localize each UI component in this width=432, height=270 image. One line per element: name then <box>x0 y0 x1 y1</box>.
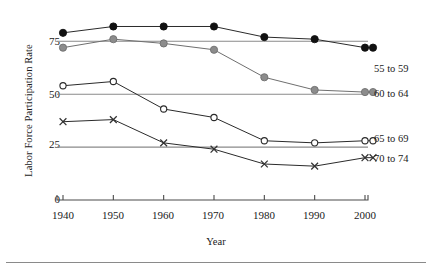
data-point <box>311 36 318 43</box>
data-point <box>161 106 167 112</box>
series-end-marker <box>369 44 376 51</box>
data-point <box>110 78 116 84</box>
data-point <box>261 74 268 81</box>
data-point <box>362 138 368 144</box>
series-line <box>63 26 373 47</box>
data-point <box>60 83 66 89</box>
series-55-to-59 <box>59 23 376 51</box>
data-point <box>110 36 117 43</box>
data-point <box>361 44 368 51</box>
data-point <box>210 23 217 30</box>
data-point <box>59 29 66 36</box>
series-65-to-69 <box>60 78 376 146</box>
chart-figure: Labor Force Participation Rate Year 75 5… <box>0 0 432 270</box>
data-point <box>311 86 318 93</box>
series-70-to-74 <box>60 116 377 169</box>
gridlines <box>57 41 368 147</box>
data-point <box>312 140 318 146</box>
series-line <box>63 39 373 92</box>
series-label-65-to-69: 65 to 69 <box>374 133 408 144</box>
series-label-55-to-59: 55 to 59 <box>374 63 408 74</box>
data-point <box>261 33 268 40</box>
data-point <box>59 44 66 51</box>
data-point <box>361 88 368 95</box>
axis-lines <box>57 195 368 200</box>
data-point <box>261 138 267 144</box>
chart-plot-area <box>0 0 432 270</box>
data-point <box>211 114 217 120</box>
series-label-60-to-64: 60 to 64 <box>374 88 408 99</box>
data-point <box>160 40 167 47</box>
series-60-to-64 <box>59 36 376 96</box>
footer-divider <box>6 262 426 263</box>
x-axis-line <box>57 195 368 200</box>
data-point <box>210 46 217 53</box>
data-point <box>110 23 117 30</box>
data-point <box>160 23 167 30</box>
series-label-70-to-74: 70 to 74 <box>374 153 408 164</box>
